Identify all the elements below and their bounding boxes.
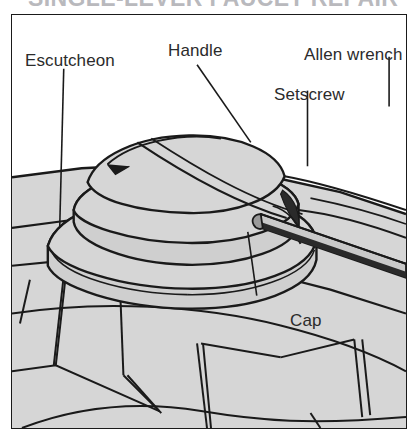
illustration-page: SINGLE-LEVER FAUCET REPAIR — [0, 0, 418, 436]
label-handle: Handle — [168, 41, 222, 61]
label-allen-wrench: Allen wrench — [304, 45, 403, 65]
figure-frame: Escutcheon Handle Allen wrench Setscrew … — [11, 14, 407, 429]
faucet-handle-diagram — [12, 15, 406, 428]
page-title-band: SINGLE-LEVER FAUCET REPAIR — [0, 0, 418, 13]
label-setscrew: Setscrew — [274, 85, 345, 105]
label-escutcheon: Escutcheon — [25, 51, 115, 71]
page-title: SINGLE-LEVER FAUCET REPAIR — [28, 0, 398, 12]
label-cap: Cap — [290, 311, 322, 331]
